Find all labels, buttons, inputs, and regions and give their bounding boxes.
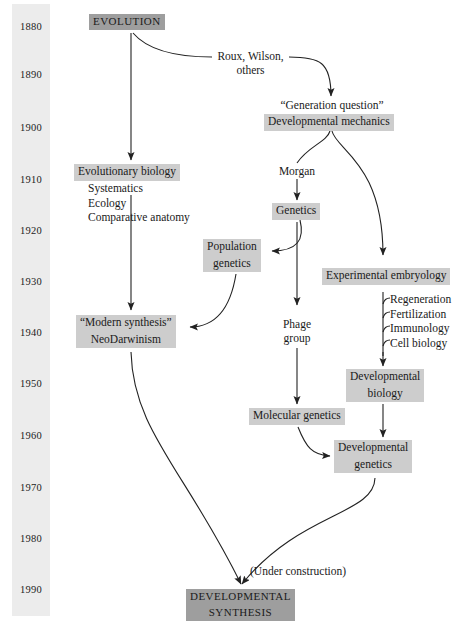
node-experimental-embryology[interactable]: Experimental embryology xyxy=(322,268,450,285)
edge-evolution-to-developmental-mechanics-left xyxy=(133,33,212,57)
year-tick-1900: 1900 xyxy=(12,122,50,133)
node-population-genetics-line2: genetics xyxy=(203,256,261,273)
year-tick-1990: 1990 xyxy=(12,584,50,595)
node-developmental-mechanics[interactable]: Developmental mechanics xyxy=(264,114,394,131)
node-developmental-genetics[interactable]: Developmental genetics xyxy=(334,440,412,473)
year-tick-1960: 1960 xyxy=(12,430,50,441)
year-tick-1980: 1980 xyxy=(12,533,50,544)
node-evolution-label: EVOLUTION xyxy=(89,14,165,30)
year-tick-1880: 1880 xyxy=(12,21,50,32)
node-modern-synthesis-line2: NeoDarwinism xyxy=(76,332,176,349)
node-developmental-biology[interactable]: Developmental biology xyxy=(346,369,424,402)
node-genetics-label: Genetics xyxy=(272,203,320,220)
node-population-genetics[interactable]: Population genetics xyxy=(203,239,261,272)
annotation-under-construction-text: (Under construction) xyxy=(250,565,346,577)
node-genetics[interactable]: Genetics xyxy=(272,203,320,220)
sublist-item-cell-biology: Cell biology xyxy=(390,336,451,351)
node-phage-group: Phage group xyxy=(270,318,324,346)
node-generation-question-label: “Generation question” xyxy=(280,99,383,111)
sublist-item-regeneration: Regeneration xyxy=(390,292,451,307)
year-tick-1930: 1930 xyxy=(12,276,50,287)
sublist-item-ecology: Ecology xyxy=(88,196,190,211)
node-molecular-genetics[interactable]: Molecular genetics xyxy=(249,408,345,425)
node-evolution[interactable]: EVOLUTION xyxy=(89,14,165,30)
sublist-tick-fertilization xyxy=(383,312,390,318)
node-modern-synthesis[interactable]: “Modern synthesis” NeoDarwinism xyxy=(76,315,176,348)
node-developmental-genetics-line2: genetics xyxy=(334,457,412,474)
sublist-tick-cell-biology xyxy=(383,340,390,346)
edge-modern-synthesis-to-developmental-synthesis xyxy=(131,352,241,584)
node-evolutionary-biology-label: Evolutionary biology xyxy=(74,164,180,181)
node-experimental-embryology-label: Experimental embryology xyxy=(322,268,450,285)
edge-devmech-to-experimental-embryology xyxy=(332,131,383,255)
edge-label-roux-wilson-line2: others xyxy=(236,64,264,76)
node-developmental-synthesis-line1: DEVELOPMENTAL xyxy=(186,589,295,605)
sublist-tick-immunology xyxy=(383,326,390,332)
node-developmental-synthesis[interactable]: DEVELOPMENTAL SYNTHESIS xyxy=(186,589,295,621)
edge-label-roux-wilson-line1: Roux, Wilson, xyxy=(217,50,283,62)
node-developmental-synthesis-line2: SYNTHESIS xyxy=(186,605,295,621)
sublist-item-fertilization: Fertilization xyxy=(390,307,451,322)
node-evolutionary-biology[interactable]: Evolutionary biology xyxy=(74,164,180,181)
edge-label-morgan: Morgan xyxy=(270,165,324,179)
year-tick-1920: 1920 xyxy=(12,225,50,236)
sublist-item-comparative-anatomy: Comparative anatomy xyxy=(88,210,190,225)
node-developmental-biology-line1: Developmental xyxy=(346,369,424,386)
timeline-diagram: 1880 1890 1900 1910 1920 1930 1940 1950 … xyxy=(0,0,459,622)
edge-evolution-to-developmental-mechanics-right xyxy=(289,57,331,96)
edge-label-morgan-text: Morgan xyxy=(279,165,315,177)
node-developmental-mechanics-label: Developmental mechanics xyxy=(264,114,394,131)
edge-label-roux-wilson: Roux, Wilson, others xyxy=(214,50,287,78)
node-molecular-genetics-label: Molecular genetics xyxy=(249,408,345,425)
node-generation-question: “Generation question” xyxy=(270,99,394,113)
edge-population-genetics-to-modern-synthesis xyxy=(190,274,236,327)
edge-molecular-genetics-to-developmental-genetics xyxy=(298,427,330,456)
node-developmental-genetics-line1: Developmental xyxy=(334,440,412,457)
year-tick-1890: 1890 xyxy=(12,69,50,80)
decade-timeline-axis: 1880 1890 1900 1910 1920 1930 1940 1950 … xyxy=(12,4,50,616)
node-developmental-biology-line2: biology xyxy=(346,386,424,403)
node-phage-group-line1: Phage xyxy=(283,318,311,330)
year-tick-1950: 1950 xyxy=(12,378,50,389)
edge-devmech-to-morgan xyxy=(297,131,330,163)
year-tick-1940: 1940 xyxy=(12,327,50,338)
node-modern-synthesis-line1: “Modern synthesis” xyxy=(76,315,176,332)
edge-genetics-to-population-genetics xyxy=(272,220,301,251)
annotation-under-construction: (Under construction) xyxy=(250,565,346,579)
node-experimental-embryology-sublist: Regeneration Fertilization Immunology Ce… xyxy=(390,292,451,351)
sublist-item-immunology: Immunology xyxy=(390,321,451,336)
node-evolutionary-biology-sublist: Systematics Ecology Comparative anatomy xyxy=(88,181,190,225)
node-phage-group-line2: group xyxy=(284,332,311,344)
sublist-tick-regeneration xyxy=(383,298,390,304)
year-tick-1910: 1910 xyxy=(12,174,50,185)
node-population-genetics-line1: Population xyxy=(203,239,261,256)
year-tick-1970: 1970 xyxy=(12,482,50,493)
sublist-item-systematics: Systematics xyxy=(88,181,190,196)
